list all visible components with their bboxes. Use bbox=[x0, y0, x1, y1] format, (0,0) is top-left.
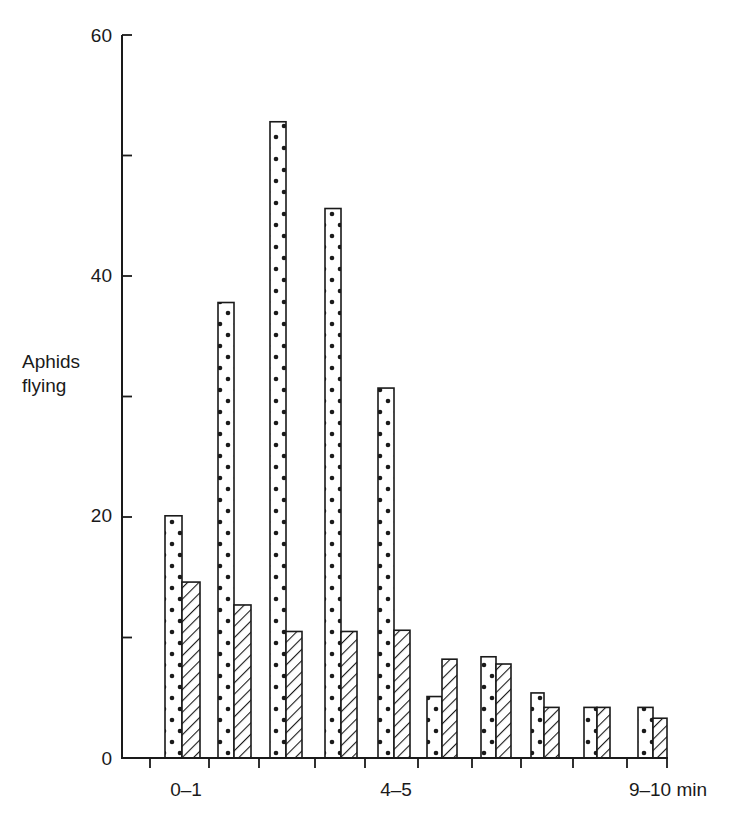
bar-dotted-4-5 bbox=[378, 388, 394, 758]
bar-hatched-1-2 bbox=[234, 605, 251, 758]
bar-dotted-7-8 bbox=[531, 693, 544, 758]
bar-hatched-4-5 bbox=[394, 630, 410, 758]
bar-hatched-6-7 bbox=[496, 664, 511, 758]
bar-chart: 60 40 20 0 Aphids flying 0–1 4–5 9–10 mi… bbox=[0, 0, 743, 821]
bar-dotted-9-10 bbox=[638, 707, 653, 758]
bar-hatched-3-4 bbox=[341, 631, 357, 758]
y-tick-label-0: 0 bbox=[101, 748, 112, 769]
bar-hatched-9-10 bbox=[653, 718, 667, 758]
bar-dotted-5-6 bbox=[427, 697, 442, 758]
x-tick-label-0-1: 0–1 bbox=[170, 779, 202, 800]
y-axis-title-line2: flying bbox=[22, 375, 66, 396]
bar-hatched-2-3 bbox=[286, 631, 302, 758]
y-axis: 60 40 20 0 bbox=[91, 25, 132, 769]
y-tick-label-20: 20 bbox=[91, 505, 112, 526]
bar-dotted-0-1 bbox=[165, 516, 182, 758]
x-tick-label-9-10-min: 9–10 min bbox=[629, 779, 707, 800]
y-axis-title-line1: Aphids bbox=[22, 351, 80, 372]
bar-hatched-7-8 bbox=[544, 707, 559, 758]
bars-group bbox=[165, 122, 667, 758]
x-tick-label-4-5: 4–5 bbox=[380, 779, 412, 800]
y-tick-label-60: 60 bbox=[91, 25, 112, 46]
y-tick-label-40: 40 bbox=[91, 265, 112, 286]
bar-hatched-8-9 bbox=[597, 707, 610, 758]
bar-hatched-0-1 bbox=[182, 582, 200, 758]
bar-dotted-1-2 bbox=[218, 303, 234, 758]
bar-dotted-8-9 bbox=[584, 707, 597, 758]
bar-dotted-2-3 bbox=[270, 122, 286, 758]
x-axis: 0–1 4–5 9–10 min bbox=[121, 758, 707, 800]
bar-hatched-5-6 bbox=[442, 659, 457, 758]
bar-dotted-3-4 bbox=[325, 209, 341, 758]
bar-dotted-6-7 bbox=[481, 657, 496, 758]
